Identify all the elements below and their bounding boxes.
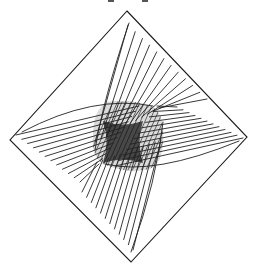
diagram-canvas [0, 0, 255, 272]
hatch-line [80, 164, 99, 182]
string-art-diagram [0, 0, 255, 272]
hatch-line [82, 162, 97, 192]
hatch-line [68, 154, 106, 174]
hatch-line [157, 106, 177, 107]
top-text-fragment [108, 0, 148, 2]
hatch-line [153, 110, 183, 112]
